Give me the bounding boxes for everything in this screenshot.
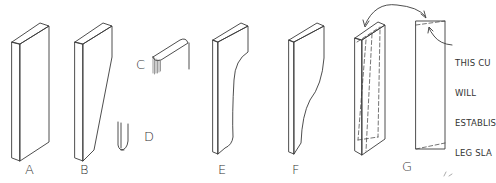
flip-arrow-icon (363, 5, 426, 27)
faint-marks (444, 172, 452, 176)
part-a-rectangular-blank (12, 23, 49, 161)
cut-annotation: THIS CU WILL ESTABLIS LEG SLA (455, 38, 496, 168)
label-g: G (402, 160, 412, 173)
annotation-line-1: THIS CU (455, 58, 496, 68)
part-b-tapered-blank (75, 23, 112, 161)
label-f: F (292, 163, 299, 176)
part-f-curved-leg (289, 23, 324, 154)
part-c-rounded-edge-profile (153, 39, 189, 74)
part-g-marked-blank (355, 22, 385, 155)
part-e-curved-leg (213, 23, 248, 154)
annotation-line-4: LEG SLA (455, 148, 496, 158)
part-d-rounded-end-profile (118, 122, 128, 150)
annotation-line-2: WILL (455, 88, 496, 98)
label-a: A (25, 163, 34, 176)
label-e: E (218, 163, 226, 176)
label-b: B (80, 163, 89, 176)
annotation-line-3: ESTABLIS (455, 118, 496, 128)
leader-arrow-icon (428, 27, 452, 45)
part-g-flipped-piece (416, 21, 445, 149)
label-c: C (136, 58, 145, 71)
label-d: D (144, 130, 154, 143)
